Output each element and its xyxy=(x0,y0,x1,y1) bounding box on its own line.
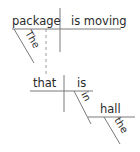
modifier-the-hall: the xyxy=(112,115,130,135)
main-verb: is moving xyxy=(71,14,127,28)
object-hall: hall xyxy=(100,102,121,116)
relative-verb: is xyxy=(77,76,86,90)
modifier-the: The xyxy=(23,28,42,50)
sentence-diagram: package is moving The that is in hall th… xyxy=(0,0,140,152)
main-subject: package xyxy=(12,14,61,28)
relative-subject: that xyxy=(33,76,57,90)
preposition-in: in xyxy=(79,90,93,103)
